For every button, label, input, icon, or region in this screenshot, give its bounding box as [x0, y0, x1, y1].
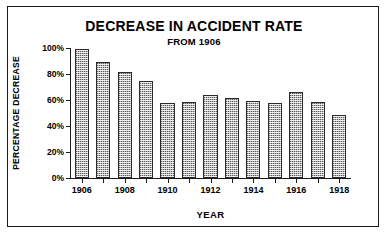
- y-tick-label: 0%: [52, 173, 64, 183]
- x-axis-title: YEAR: [70, 209, 351, 220]
- y-tick-label: 60%: [47, 95, 64, 105]
- bar-series: [71, 48, 351, 178]
- x-tick-mark: [82, 179, 83, 183]
- x-tick-label: 1918: [329, 185, 349, 195]
- chart-frame: DECREASE IN ACCIDENT RATE FROM 1906 PERC…: [7, 6, 379, 227]
- x-tick-mark: [168, 179, 169, 183]
- x-tick-mark: [232, 179, 233, 183]
- x-tick-mark: [318, 179, 319, 183]
- x-tick-mark: [103, 179, 104, 183]
- x-tick-label: 1914: [243, 185, 263, 195]
- y-tick-label: 100%: [42, 43, 64, 53]
- x-tick-label: 1916: [286, 185, 306, 195]
- bar-1916: [289, 92, 303, 178]
- bar-1910: [160, 103, 174, 178]
- x-tick-label: 1912: [200, 185, 220, 195]
- bar-1914: [246, 101, 260, 178]
- y-tick-mark: [66, 178, 71, 179]
- x-tick-mark: [189, 179, 190, 183]
- x-tick-label: 1908: [115, 185, 135, 195]
- x-tick-label: 1906: [72, 185, 92, 195]
- bar-1917: [311, 102, 325, 178]
- y-tick-label: 80%: [47, 69, 64, 79]
- x-tick-mark: [125, 179, 126, 183]
- x-tick-mark: [339, 179, 340, 183]
- bar-1912: [203, 95, 217, 178]
- bar-1906: [75, 49, 89, 178]
- bar-1907: [96, 62, 110, 178]
- chart-title: DECREASE IN ACCIDENT RATE: [8, 18, 380, 34]
- x-tick-mark: [253, 179, 254, 183]
- x-tick-mark: [211, 179, 212, 183]
- bar-1909: [139, 81, 153, 178]
- plot-area: PERCENTAGE DECREASE 100%80%60%40%20%0% 1…: [70, 48, 351, 179]
- x-tick-mark: [275, 179, 276, 183]
- y-tick-label: 40%: [47, 121, 64, 131]
- bar-1913: [225, 98, 239, 178]
- bar-1908: [118, 72, 132, 178]
- bar-1911: [182, 102, 196, 178]
- y-tick-label: 20%: [47, 147, 64, 157]
- x-tick-mark: [146, 179, 147, 183]
- y-axis-title: PERCENTAGE DECREASE: [11, 56, 21, 170]
- bar-1915: [268, 103, 282, 178]
- x-tick-mark: [296, 179, 297, 183]
- x-tick-label: 1910: [158, 185, 178, 195]
- bar-1918: [332, 115, 346, 178]
